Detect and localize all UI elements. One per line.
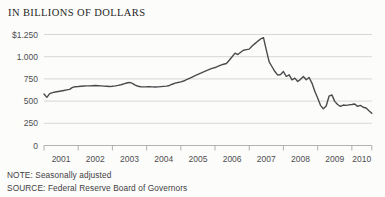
y-axis-label: 500 [24, 96, 38, 106]
x-axis-year-label: 2003 [120, 154, 139, 164]
y-axis-label: 1.000 [17, 52, 39, 62]
y-axis-label: 0 [33, 141, 38, 151]
chart-panel: IN BILLIONS OF DOLLARS 02505007501.000$1… [0, 0, 385, 197]
chart-source: SOURCE: Federal Reserve Board of Governo… [7, 183, 187, 193]
x-axis-year-label: 2006 [223, 154, 242, 164]
x-axis-year-label: 2002 [86, 154, 105, 164]
y-axis-label: 750 [24, 74, 38, 84]
y-axis-label: 250 [24, 118, 38, 128]
data-line-series [44, 38, 372, 114]
x-axis-year-label: 2001 [52, 154, 71, 164]
x-axis-year-label: 2009 [325, 154, 344, 164]
x-axis-year-label: 2010 [352, 154, 371, 164]
x-axis-year-label: 2004 [154, 154, 173, 164]
chart-canvas: 02505007501.000$1.2502001200220032004200… [0, 0, 385, 197]
x-axis-year-label: 2005 [188, 154, 207, 164]
chart-note: NOTE: Seasonally adjusted [7, 170, 111, 180]
x-axis-year-label: 2007 [257, 154, 276, 164]
y-axis-label: $1.250 [12, 30, 38, 40]
x-axis-year-label: 2008 [291, 154, 310, 164]
